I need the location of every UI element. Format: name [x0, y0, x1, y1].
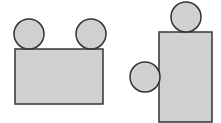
diagram-canvas — [0, 0, 221, 123]
figure-left — [14, 19, 106, 104]
rectangle-left — [15, 49, 103, 104]
circle-left-2 — [76, 19, 106, 49]
circle-right-top — [171, 2, 201, 32]
figure-right — [130, 2, 212, 122]
circle-right-side — [130, 62, 160, 92]
rectangle-right — [159, 32, 212, 122]
circle-left-1 — [14, 19, 44, 49]
